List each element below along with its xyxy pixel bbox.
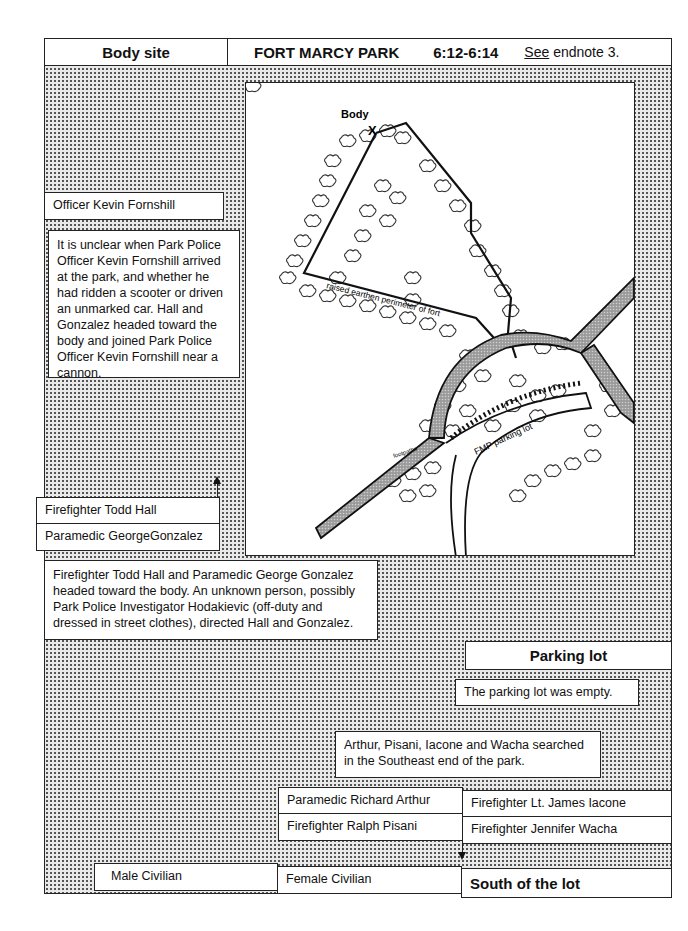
hall-gonzalez-note-text: Firefighter Todd Hall and Paramedic Geor… bbox=[53, 568, 355, 630]
gonzalez-label: Paramedic GeorgeGonzalez bbox=[45, 529, 203, 543]
hall-label: Firefighter Todd Hall bbox=[45, 503, 157, 517]
person-female-civilian: Female Civilian bbox=[277, 866, 462, 894]
parking-lot-title: Parking lot bbox=[530, 647, 608, 664]
arrow-down-icon bbox=[458, 852, 466, 860]
note-fornshill: It is unclear when Park Police Officer K… bbox=[48, 230, 240, 378]
arrow-up-icon bbox=[213, 476, 221, 484]
fornshill-note-text: It is unclear when Park Police Officer K… bbox=[57, 238, 223, 380]
note-southeast-search: Arthur, Pisani, Iacone and Wacha searche… bbox=[335, 731, 601, 778]
person-firefighter-wacha: Firefighter Jennifer Wacha bbox=[462, 816, 672, 844]
section-title-south-of-lot: South of the lot bbox=[461, 868, 672, 898]
endnote-text: endnote 3. bbox=[549, 44, 619, 60]
person-firefighter-hall: Firefighter Todd Hall bbox=[36, 497, 220, 524]
endnote-reference: See endnote 3. bbox=[524, 44, 619, 60]
note-parking-empty: The parking lot was empty. bbox=[455, 679, 639, 706]
arthur-label: Paramedic Richard Arthur bbox=[287, 793, 430, 807]
fort-marcy-map: Body X raised earthen perimeter of fort … bbox=[245, 82, 635, 556]
map-body-label: Body bbox=[341, 108, 369, 120]
person-firefighter-iacone: Firefighter Lt. James Iacone bbox=[462, 790, 672, 817]
body-site-label: Body site bbox=[102, 44, 170, 61]
arrow-up-line bbox=[217, 482, 218, 498]
search-note-text: Arthur, Pisani, Iacone and Wacha searche… bbox=[344, 738, 584, 768]
iacone-label: Firefighter Lt. James Iacone bbox=[471, 796, 626, 810]
fornshill-label: Officer Kevin Fornshill bbox=[53, 198, 175, 212]
map-drawing: Body X raised earthen perimeter of fort … bbox=[246, 83, 635, 556]
person-officer-fornshill: Officer Kevin Fornshill bbox=[44, 192, 224, 220]
map-body-marker: X bbox=[368, 123, 377, 138]
note-hall-gonzalez: Firefighter Todd Hall and Paramedic Geor… bbox=[44, 560, 378, 640]
parking-road-left bbox=[451, 455, 456, 556]
section-title-parking-lot: Parking lot bbox=[465, 641, 672, 670]
endnote-see-link: See bbox=[524, 44, 549, 60]
person-male-civilian: Male Civilian bbox=[94, 863, 278, 891]
wacha-label: Firefighter Jennifer Wacha bbox=[471, 822, 617, 836]
person-paramedic-arthur: Paramedic Richard Arthur bbox=[278, 787, 463, 814]
section-title-body-site: Body site bbox=[44, 38, 228, 66]
fort-perimeter bbox=[304, 123, 516, 358]
pisani-label: Firefighter Ralph Pisani bbox=[287, 819, 417, 833]
park-name: FORT MARCY PARK bbox=[254, 44, 399, 61]
person-firefighter-pisani: Firefighter Ralph Pisani bbox=[278, 813, 463, 841]
male-civilian-label: Male Civilian bbox=[103, 869, 182, 883]
parking-road-right bbox=[446, 393, 591, 556]
time-range: 6:12-6:14 bbox=[433, 44, 498, 61]
map-perimeter-label: raised earthen perimeter of fort bbox=[326, 280, 442, 318]
header-bar: FORT MARCY PARK 6:12-6:14 See endnote 3. bbox=[227, 38, 672, 66]
map-parking-label: FMP parking lot bbox=[473, 421, 535, 457]
parking-empty-text: The parking lot was empty. bbox=[464, 685, 612, 699]
person-paramedic-gonzalez: Paramedic GeorgeGonzalez bbox=[36, 523, 220, 551]
female-civilian-label: Female Civilian bbox=[286, 872, 371, 886]
south-of-lot-title: South of the lot bbox=[470, 875, 580, 892]
